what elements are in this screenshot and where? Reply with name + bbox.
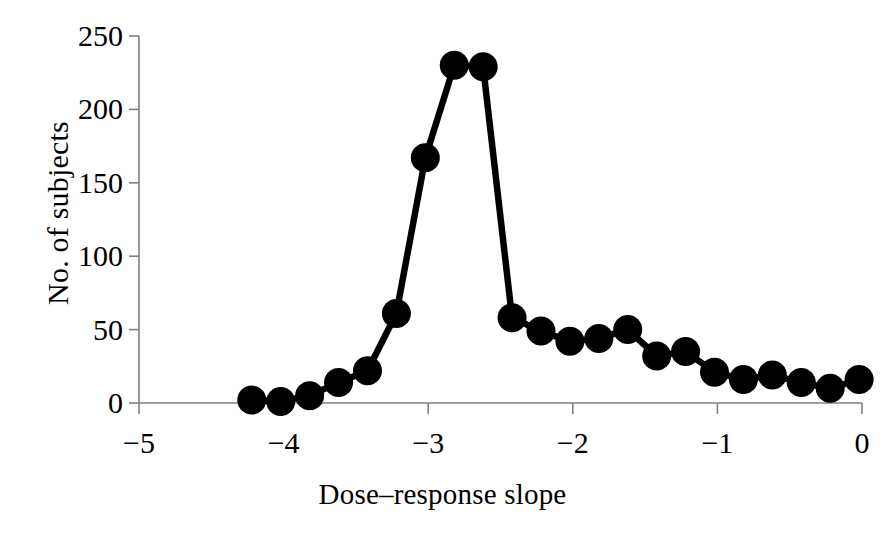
data-point: [787, 368, 816, 397]
data-point: [353, 356, 382, 385]
data-point: [266, 387, 295, 416]
data-point: [382, 299, 411, 328]
data-point: [584, 324, 613, 353]
y-tick-label: 150: [33, 168, 123, 198]
data-point: [295, 381, 324, 410]
x-tick-label: −1: [682, 428, 752, 458]
data-point: [324, 368, 353, 397]
x-tick-label: −5: [104, 428, 174, 458]
y-tick-label: 0: [33, 388, 123, 418]
data-point: [555, 327, 584, 356]
data-point: [700, 358, 729, 387]
data-series: [237, 51, 873, 416]
data-point: [758, 361, 787, 390]
x-tick-label: −4: [249, 428, 319, 458]
y-tick-label: 200: [33, 94, 123, 124]
data-point: [498, 303, 527, 332]
y-tick-label: 50: [33, 315, 123, 345]
data-point: [440, 51, 469, 80]
data-point: [411, 143, 440, 172]
chart-plot-area: [0, 0, 885, 552]
data-point: [613, 315, 642, 344]
x-tick-label: 0: [827, 428, 885, 458]
data-point: [642, 342, 671, 371]
data-point: [816, 374, 845, 403]
tick-marks: [129, 36, 862, 414]
x-tick-label: −3: [393, 428, 463, 458]
y-tick-label: 250: [33, 21, 123, 51]
x-tick-label: −2: [538, 428, 608, 458]
y-tick-label: 100: [33, 241, 123, 271]
data-point: [237, 386, 266, 415]
data-point: [671, 337, 700, 366]
chart-figure: No. of subjects Dose–response slope 0501…: [0, 0, 885, 552]
data-point: [845, 365, 874, 394]
data-point: [729, 365, 758, 394]
data-point: [469, 52, 498, 81]
data-point: [526, 317, 555, 346]
series-line: [252, 65, 859, 401]
